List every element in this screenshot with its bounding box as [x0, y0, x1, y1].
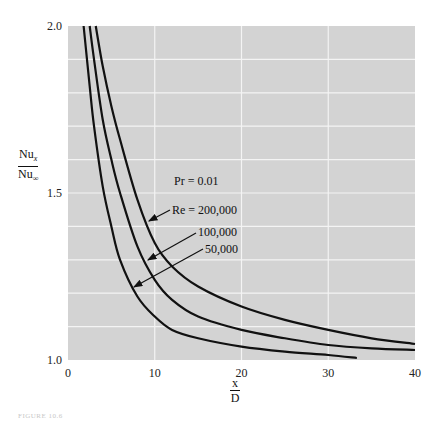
y-label-den-subscript: ∞ — [33, 175, 39, 184]
y-tick-label: 1.0 — [47, 353, 62, 367]
y-label-num-subscript: x — [34, 154, 38, 163]
x-tick-label: 10 — [149, 366, 161, 380]
x-axis-label: x D — [230, 376, 240, 405]
annotation-label: Re = 200,000 — [172, 203, 237, 217]
x-tick-label: 0 — [65, 366, 71, 380]
y-label-numerator: Nu — [19, 147, 34, 161]
chart: 0102030401.01.52.0 Pr = 0.01Re = 200,000… — [0, 0, 437, 422]
x-tick-label: 40 — [409, 366, 421, 380]
x-label-denominator: D — [230, 391, 240, 405]
y-tick-label: 2.0 — [47, 19, 62, 33]
figure-caption: FIGURE 10.6 — [18, 412, 63, 420]
annotation-label: 50,000 — [205, 242, 238, 256]
y-axis-label: Nux Nu∞ — [18, 147, 38, 187]
x-label-numerator: x — [230, 376, 240, 391]
x-tick-label: 30 — [322, 366, 334, 380]
y-tick-label: 1.5 — [47, 186, 62, 200]
annotation-label: Pr = 0.01 — [174, 174, 218, 188]
y-label-denominator: Nu — [18, 167, 33, 181]
annotation-label: 100,000 — [198, 225, 237, 239]
